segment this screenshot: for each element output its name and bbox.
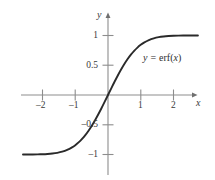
x-tick-label--1: –1 xyxy=(69,101,79,111)
y-axis-label: y xyxy=(97,10,101,20)
curve-annotation-close: ) xyxy=(178,52,181,63)
y-tick-label--1: –1 xyxy=(82,150,98,160)
curve-annotation-equals: = xyxy=(150,52,156,63)
x-tick-label-2: 2 xyxy=(171,101,176,111)
y-tick-label-0.5: 0.5 xyxy=(78,61,98,71)
x-tick-label--2: –2 xyxy=(36,101,46,111)
x-tick-label-1: 1 xyxy=(138,101,143,111)
curve-annotation: y=erf(x) xyxy=(143,53,181,63)
curve-annotation-fn: erf( xyxy=(159,52,173,63)
plot-canvas xyxy=(0,0,215,180)
curve-annotation-y: y xyxy=(143,52,147,63)
y-tick-label-1: 1 xyxy=(86,31,98,41)
y-tick-label--0.5: –0.5 xyxy=(74,120,98,130)
erf-function-plot: –2 –1 1 2 1 0.5 –0.5 –1 y x y=erf(x) xyxy=(0,0,215,180)
x-axis-label: x xyxy=(196,98,200,108)
